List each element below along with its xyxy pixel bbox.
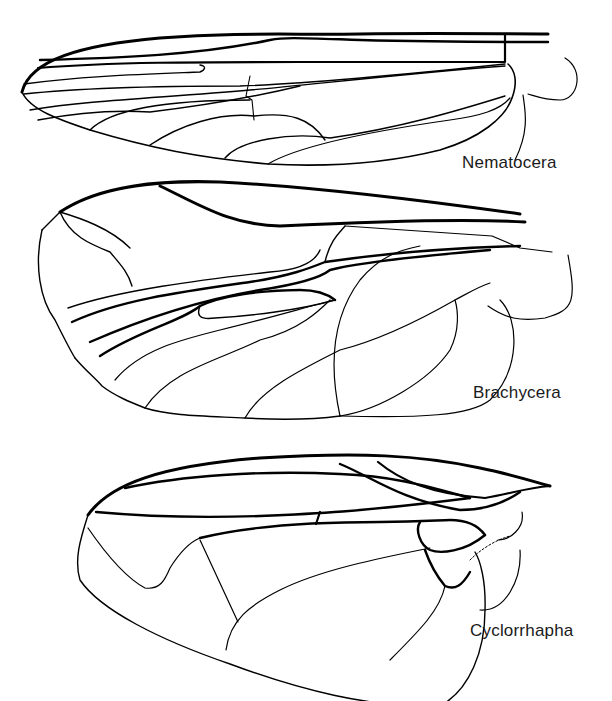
wing-venation-figure: Nematocera Brachycera Cyclorrhapha xyxy=(0,0,612,701)
nematocera-label: Nematocera xyxy=(462,153,557,173)
brachycera-label: Brachycera xyxy=(473,383,561,403)
cyclorrhapha-wing-drawing xyxy=(0,0,612,701)
cyclorrhapha-label: Cyclorrhapha xyxy=(470,621,574,641)
